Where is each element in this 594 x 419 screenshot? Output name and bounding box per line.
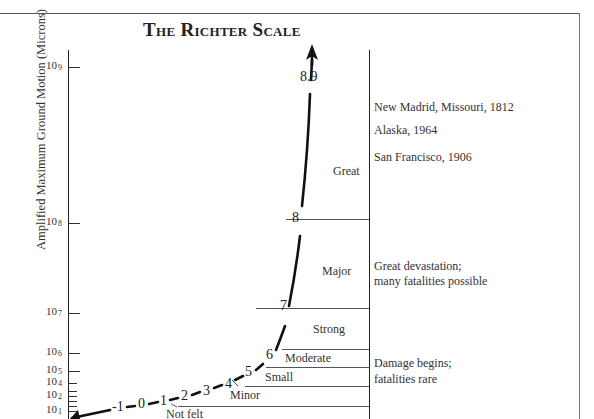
class-label-major: Major [322,264,351,279]
note-damage-line2: fatalities rare [374,371,437,387]
magnitude-label: 8 [292,210,299,226]
class-label-not-felt: Not felt [166,407,203,419]
note-new-madrid: New Madrid, Missouri, 1812 [374,99,514,115]
note-damage-line1: Damage begins; [374,355,452,371]
magnitude-label: 3 [203,383,210,399]
class-label-strong: Strong [313,322,345,337]
class-label-minor: Minor [230,388,260,403]
note-alaska: Alaska, 1964 [374,122,437,138]
note-devastation-line1: Great devastation; [374,258,462,274]
note-devastation-line2: many fatalities possible [374,273,487,289]
class-label-moderate: Moderate [285,351,331,366]
magnitude-label: 0 [138,396,145,412]
magnitude-label: 2 [181,388,188,404]
magnitude-label: 7 [280,298,287,314]
magnitude-label: -1 [112,399,124,415]
note-san-francisco: San Francisco, 1906 [374,149,472,165]
magnitude-label: 8.9 [300,69,318,85]
magnitude-label: 5 [245,364,252,380]
class-label-small: Small [265,370,293,385]
class-label-great: Great [333,164,360,179]
magnitude-label: 6 [266,347,273,363]
